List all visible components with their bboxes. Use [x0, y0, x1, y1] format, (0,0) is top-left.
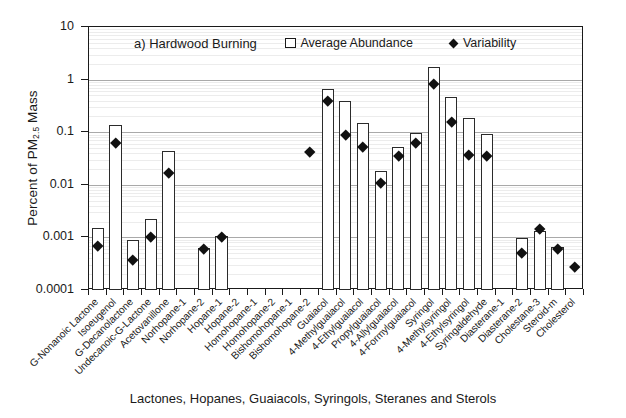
x-axis-title: Lactones, Hopanes, Guaiacols, Syringols,…: [0, 391, 626, 406]
figure: Percent of PM2.5 Mass 1010.10.010.0010.0…: [0, 0, 626, 418]
x-axis-category-labels: G-Nonanoic LactoneIsoeugenolG-Decanolact…: [0, 0, 626, 418]
